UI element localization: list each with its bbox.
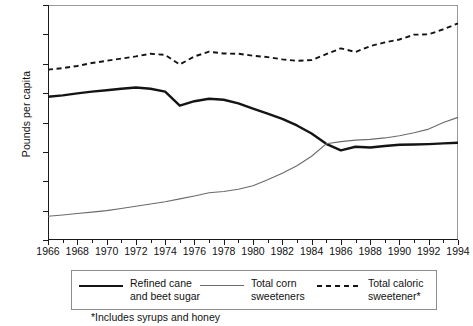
x-tick: [443, 240, 444, 243]
legend-label-line2: sweeteners: [251, 290, 305, 303]
legend-label-line1: Refined cane: [130, 277, 200, 290]
x-tick: [151, 240, 152, 243]
series-line-1: [48, 117, 458, 216]
x-tick: [414, 240, 415, 243]
series-lines: [48, 5, 458, 240]
chart-legend: Refined caneand beet sugarTotal cornswee…: [71, 270, 437, 310]
legend-item: Refined caneand beet sugar: [79, 277, 200, 302]
legend-label-line2: and beet sugar: [130, 290, 200, 303]
chart-figure: Pounds per capita 020406080100120140160 …: [0, 0, 473, 326]
x-tick: [297, 240, 298, 243]
y-axis-title: Pounds per capita: [20, 44, 32, 184]
series-line-0: [48, 88, 458, 151]
x-tick: [385, 240, 386, 243]
legend-swatch-solid-thin-icon: [200, 279, 244, 293]
legend-label-line2: sweetener*: [368, 290, 423, 303]
legend-swatch-dashed-icon: [317, 279, 361, 293]
x-tick: [326, 240, 327, 243]
legend-item: Total cornsweeteners: [200, 277, 305, 302]
legend-swatch-solid-thick-icon: [79, 279, 123, 293]
legend-label: Total cornsweeteners: [251, 277, 305, 302]
x-tick: [209, 240, 210, 243]
series-line-2: [48, 23, 458, 69]
x-tick: [63, 240, 64, 243]
x-tick: [356, 240, 357, 243]
x-tick: [121, 240, 122, 243]
chart-footnote: *Includes syrups and honey: [91, 311, 220, 323]
x-tick: [180, 240, 181, 243]
legend-label: Refined caneand beet sugar: [130, 277, 200, 302]
x-tick: [268, 240, 269, 243]
x-tick: [92, 240, 93, 243]
legend-label-line1: Total corn: [251, 277, 305, 290]
x-tick: [238, 240, 239, 243]
legend-label-line1: Total caloric: [368, 277, 423, 290]
legend-item: Total caloricsweetener*: [317, 277, 423, 302]
legend-label: Total caloricsweetener*: [368, 277, 423, 302]
plot-area: [48, 5, 458, 240]
x-tick-label: 1994: [438, 246, 473, 257]
